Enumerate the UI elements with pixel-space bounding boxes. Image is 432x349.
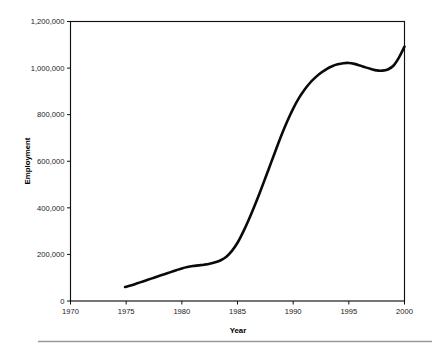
x-tick-label: 1980 [173,307,190,316]
chart-figure: 0200,000400,000600,000800,0001,000,0001,… [0,0,432,349]
employment-line-chart: 0200,000400,000600,000800,0001,000,0001,… [0,0,432,349]
y-tick-label: 1,000,000 [31,64,65,73]
y-tick-label: 800,000 [37,110,64,119]
x-tick-label: 1975 [118,307,135,316]
x-tick-label: 1985 [229,307,246,316]
x-axis-title: Year [230,326,246,335]
y-tick-label: 1,200,000 [31,17,65,26]
chart-background [0,0,432,349]
y-tick-label: 400,000 [37,204,64,213]
x-tick-label: 1970 [62,307,79,316]
x-tick-label: 1990 [285,307,302,316]
y-tick-label: 200,000 [37,250,64,259]
x-tick-label: 2000 [396,307,413,316]
y-axis-title: Employment [23,137,32,184]
y-tick-label: 0 [60,297,64,306]
y-tick-label: 600,000 [37,157,64,166]
x-tick-label: 1995 [340,307,357,316]
